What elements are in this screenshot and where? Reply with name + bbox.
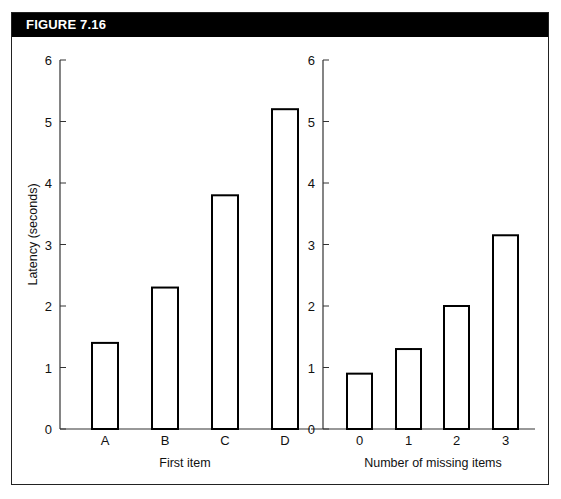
chart-1-x-tick-label: D xyxy=(280,433,289,448)
chart-2-bar-1 xyxy=(396,349,421,429)
chart-1-x-tick-label: A xyxy=(101,433,110,448)
figure-charts: 0123456ABCDFirst itemLatency (seconds)01… xyxy=(0,0,561,499)
chart-2-x-tick-label: 1 xyxy=(405,433,412,448)
chart-2-y-tick-label: 0 xyxy=(308,422,315,437)
chart-2-y-tick-label: 4 xyxy=(308,176,315,191)
chart-1-y-tick-label: 2 xyxy=(45,299,52,314)
chart-2-bar-0 xyxy=(347,374,372,429)
chart-1-bar-A xyxy=(92,343,118,429)
chart-2-y-tick-label: 1 xyxy=(308,361,315,376)
chart-1-y-tick-label: 3 xyxy=(45,238,52,253)
chart-1-y-tick-label: 6 xyxy=(45,53,52,68)
chart-2-y-tick-label: 5 xyxy=(308,115,315,130)
chart-1-y-tick-label: 0 xyxy=(45,422,52,437)
chart-1-x-tick-label: C xyxy=(220,433,229,448)
chart-2-x-tick-label: 2 xyxy=(453,433,460,448)
chart-1-y-tick-label: 1 xyxy=(45,361,52,376)
chart-2-y-tick-label: 3 xyxy=(308,238,315,253)
chart-2-x-tick-label: 3 xyxy=(502,433,509,448)
chart-2-bar-3 xyxy=(493,235,518,429)
chart-1-y-tick-label: 4 xyxy=(45,176,52,191)
chart-2-y-tick-label: 6 xyxy=(308,53,315,68)
chart-1-bar-B xyxy=(152,288,178,429)
chart-1-y-tick-label: 5 xyxy=(45,115,52,130)
chart-2-y-tick-label: 2 xyxy=(308,299,315,314)
chart-2-x-axis-title: Number of missing items xyxy=(364,456,502,470)
chart-2-x-tick-label: 0 xyxy=(356,433,363,448)
chart-1-bar-D xyxy=(272,109,298,429)
chart-1-bar-C xyxy=(212,195,238,429)
chart-1-y-axis-title: Latency (seconds) xyxy=(26,183,40,285)
chart-1-x-tick-label: B xyxy=(161,433,170,448)
chart-1-x-axis-title: First item xyxy=(159,456,210,470)
chart-2-bar-2 xyxy=(444,306,469,429)
